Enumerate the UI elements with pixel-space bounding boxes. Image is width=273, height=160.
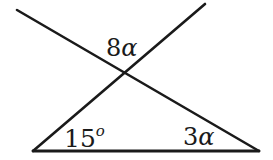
line-ascending — [33, 4, 205, 151]
left-angle-degree: o — [96, 122, 105, 140]
right-angle-var: α — [198, 123, 214, 151]
line-descending — [17, 10, 259, 151]
left-angle-label: 15o — [64, 122, 105, 153]
top-angle-label: 8α — [106, 34, 138, 62]
right-angle-label: 3α — [183, 123, 215, 151]
angle-diagram: 8α 15o 3α — [0, 0, 273, 160]
right-angle-coef: 3 — [183, 123, 198, 151]
left-angle-value: 15 — [64, 124, 96, 153]
top-angle-coef: 8 — [106, 34, 121, 62]
top-angle-var: α — [121, 34, 137, 62]
